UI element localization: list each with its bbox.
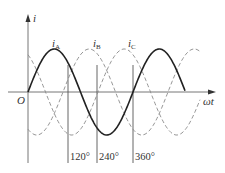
marker-label-240: 240° [99, 152, 119, 163]
marker-label-360: 360° [135, 152, 155, 163]
origin-label: O [17, 95, 25, 106]
x-axis-label: ωt [203, 96, 214, 107]
y-axis-label: i [33, 13, 36, 24]
waveform-plot [0, 0, 225, 173]
curve-label-ic: iC [128, 38, 136, 51]
marker-label-120: 120° [70, 152, 90, 163]
y-axis-arrow-icon [26, 14, 31, 22]
curve-label-ib: iB [93, 38, 101, 51]
x-axis-arrow-icon [208, 90, 216, 95]
curve-label-ia: iA [52, 38, 60, 51]
